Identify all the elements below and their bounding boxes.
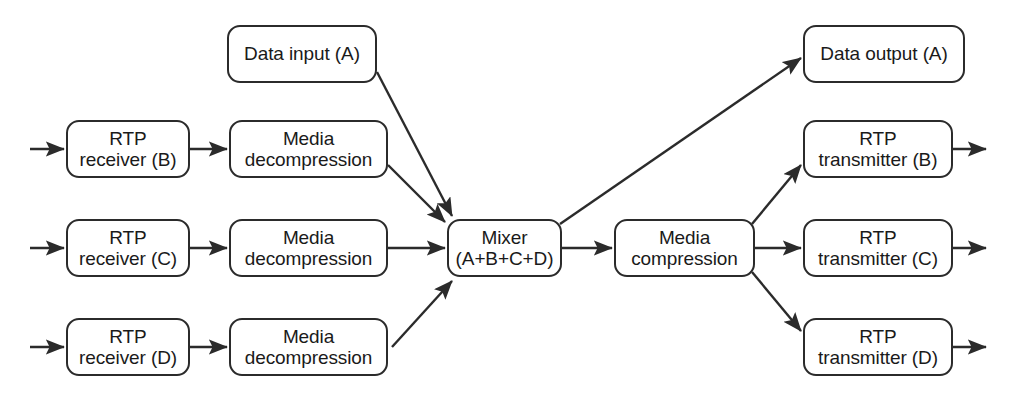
node-label-line1: Media [659,227,710,248]
node-label-line1: RTP [859,227,896,248]
node-mixer[interactable]: Mixer (A+B+C+D) [447,219,562,277]
node-rtp-transmitter-d[interactable]: RTP transmitter (D) [803,318,953,376]
node-rtp-transmitter-c[interactable]: RTP transmitter (C) [803,219,953,277]
node-rtp-receiver-d[interactable]: RTP receiver (D) [66,318,190,376]
node-label-line1: RTP [109,227,146,248]
node-media-decompression-d[interactable]: Media decompression [229,318,388,376]
node-label-line1: Media [283,227,334,248]
node-media-compression[interactable]: Media compression [614,219,755,277]
connector-mixer-to-output-a [560,58,801,224]
node-label-line2: decompression [245,347,373,368]
node-label-line2: receiver (D) [79,347,177,368]
node-label-line1: Mixer [482,227,528,248]
node-label-line2: decompression [245,248,373,269]
node-rtp-receiver-b[interactable]: RTP receiver (B) [66,120,190,178]
node-label-line2: transmitter (D) [818,347,938,368]
node-label-line2: receiver (C) [79,248,177,269]
diagram-canvas: Data input (A) RTP receiver (B) Media de… [0,0,1012,402]
connector-d-decomp-to-mixer [392,281,452,347]
node-media-decompression-b[interactable]: Media decompression [229,120,388,178]
node-label-line1: RTP [859,326,896,347]
node-label-line2: (A+B+C+D) [456,248,554,269]
connector-input-a-to-mixer [377,72,452,216]
node-label-line2: transmitter (C) [818,248,938,269]
node-label-line1: RTP [859,128,896,149]
node-rtp-transmitter-b[interactable]: RTP transmitter (B) [803,120,953,178]
node-rtp-receiver-c[interactable]: RTP receiver (C) [66,219,190,277]
node-label-line1: Data output (A) [820,43,947,64]
node-label-line1: Media [283,326,334,347]
node-label-line1: Data input (A) [244,43,360,64]
node-label-line1: RTP [109,128,146,149]
connector-b-decomp-to-mixer [388,165,445,222]
node-label-line2: decompression [245,149,373,170]
node-label-line2: receiver (B) [80,149,177,170]
node-label-line2: compression [631,248,738,269]
node-data-output-a[interactable]: Data output (A) [803,25,965,83]
node-media-decompression-c[interactable]: Media decompression [229,219,388,277]
connector-compress-to-tx-d [752,272,801,331]
node-label-line2: transmitter (B) [819,149,938,170]
node-label-line1: Media [283,128,334,149]
connector-compress-to-tx-b [752,165,801,224]
node-label-line1: RTP [109,326,146,347]
node-data-input-a[interactable]: Data input (A) [227,25,377,83]
